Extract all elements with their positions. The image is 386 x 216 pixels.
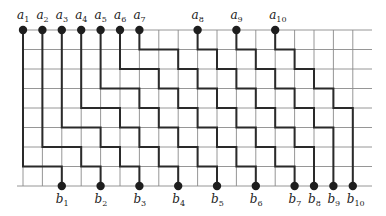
source-node-a2 — [38, 26, 46, 34]
source-label-a9: a9 — [230, 8, 242, 24]
sink-node-b3 — [135, 182, 143, 190]
sink-node-b2 — [96, 182, 104, 190]
sink-label-b3: b3 — [133, 192, 146, 208]
source-label-a10: a10 — [269, 8, 286, 24]
sink-label-b10: b10 — [347, 192, 365, 208]
lattice-path-diagram: a1a2a3a4a5a6a7a8a9a10b1b2b3b4b5b6b7b8b9b… — [0, 0, 386, 216]
sink-label-b8: b8 — [308, 192, 321, 208]
source-label-a2: a2 — [36, 8, 48, 24]
source-label-a5: a5 — [95, 8, 107, 24]
source-node-a8 — [193, 26, 201, 34]
sink-node-b1 — [58, 182, 66, 190]
source-label-a7: a7 — [133, 8, 145, 24]
source-node-a4 — [77, 26, 85, 34]
source-label-a4: a4 — [75, 8, 87, 24]
sink-node-b4 — [174, 182, 182, 190]
source-node-a7 — [135, 26, 143, 34]
sink-node-b8 — [310, 182, 318, 190]
sink-label-b9: b9 — [327, 192, 340, 208]
source-label-a8: a8 — [192, 8, 204, 24]
source-node-a9 — [232, 26, 240, 34]
source-node-a3 — [58, 26, 66, 34]
sink-label-b6: b6 — [250, 192, 263, 208]
sink-node-b10 — [349, 182, 357, 190]
source-node-a5 — [96, 26, 104, 34]
sink-node-b5 — [213, 182, 221, 190]
source-node-a10 — [271, 26, 279, 34]
sink-label-b1: b1 — [56, 192, 69, 208]
source-label-a3: a3 — [56, 8, 68, 24]
source-node-a6 — [116, 26, 124, 34]
sink-label-b2: b2 — [95, 192, 108, 208]
sink-label-b4: b4 — [172, 192, 185, 208]
sink-node-b6 — [252, 182, 260, 190]
source-label-a6: a6 — [114, 8, 126, 24]
source-node-a1 — [19, 26, 27, 34]
sink-node-b7 — [290, 182, 298, 190]
sink-label-b7: b7 — [289, 192, 302, 208]
source-label-a1: a1 — [17, 8, 29, 24]
sink-label-b5: b5 — [211, 192, 224, 208]
sink-node-b9 — [329, 182, 337, 190]
